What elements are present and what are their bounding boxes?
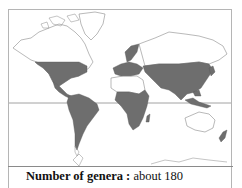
africa-range xyxy=(115,90,149,130)
genera-count-caption: Number of genera : about 180 xyxy=(26,169,183,184)
asia-range xyxy=(143,62,213,100)
south-america-range xyxy=(67,94,99,150)
world-distribution-map xyxy=(9,10,231,167)
caption-label: Number of genera : xyxy=(26,169,130,183)
africa-outline xyxy=(111,76,145,94)
central-america-range xyxy=(53,82,71,98)
new-zealand-range xyxy=(219,130,227,142)
caption-value: about 180 xyxy=(133,169,183,183)
north-america-range xyxy=(35,62,87,86)
asia-outline xyxy=(139,32,227,66)
europe-range xyxy=(113,62,143,76)
australia-outline xyxy=(185,112,215,132)
caption-divider xyxy=(8,166,233,167)
greenland-outline xyxy=(79,12,105,40)
scandinavia-range xyxy=(125,44,139,62)
